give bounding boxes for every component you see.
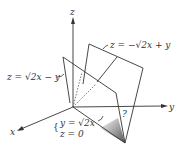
leader-lines	[57, 45, 108, 121]
y-axis-label: y	[168, 102, 175, 112]
x-axis-arrow-icon	[17, 126, 24, 131]
x-axis-label: x	[10, 127, 15, 137]
z-axis-arrow-icon	[71, 17, 75, 24]
angle-label: ?	[122, 109, 127, 119]
intersection-eq-2: z = 0	[59, 129, 84, 139]
brace: {	[53, 122, 59, 132]
plane-left-equation: z = √2x − y	[6, 72, 61, 82]
z-axis-label: z	[69, 7, 75, 17]
y-axis-arrow-icon	[161, 104, 168, 108]
plane-right-equation: z = −√2x + y	[109, 40, 171, 50]
planes-diagram: z y x z = −√2x + y z = √2x − y { y = √2x…	[0, 0, 183, 167]
intersection-eq-1: y = √2x	[59, 118, 95, 128]
